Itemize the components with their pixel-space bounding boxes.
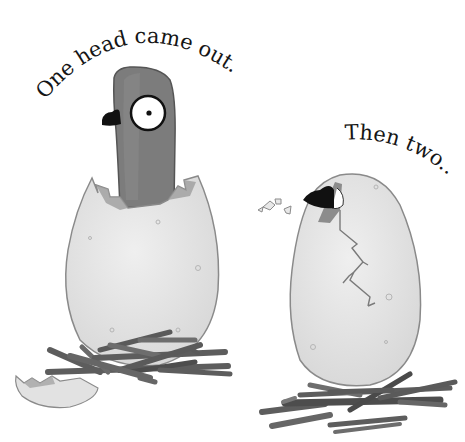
pigeon-beak — [102, 110, 121, 126]
storybook-page: One head came out. Then two... — [0, 0, 465, 442]
illustration: One head came out. Then two... — [0, 0, 465, 442]
pigeon-pupil — [146, 110, 151, 115]
pigeon-head — [114, 67, 175, 208]
flying-shell-bits — [258, 199, 291, 214]
right-egg-shell — [290, 174, 420, 386]
right-egg-group — [290, 174, 420, 386]
left-nest — [48, 332, 230, 382]
caption-two-text: Then two... — [0, 0, 460, 179]
caption-two: Then two... — [0, 0, 460, 179]
left-egg-group — [66, 67, 219, 366]
